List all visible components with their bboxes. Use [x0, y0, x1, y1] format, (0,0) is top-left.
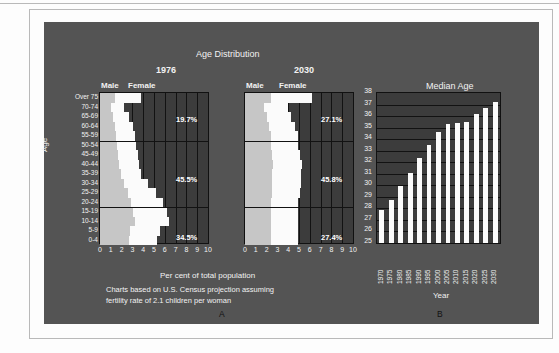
chart-a-bar-male: [245, 141, 271, 151]
chart-b-bar: [408, 173, 413, 243]
chart-a-1976-heading: 1976: [156, 66, 176, 75]
chart-b-bar: [474, 114, 479, 243]
chart-a-bar-male: [245, 93, 271, 103]
chart-a-bar-female: [267, 112, 292, 122]
chart-a-y-tick-labels: Over 7570-7465-6960-6455-5950-5445-4940-…: [50, 92, 98, 244]
chart-a-y-tick-label: 10-14: [81, 216, 98, 226]
chart-a-bar-male: [245, 103, 264, 113]
chart-a-bar-female: [271, 131, 298, 141]
chart-a-bar-male: [100, 160, 119, 170]
chart-a-bar-female: [272, 169, 301, 179]
chart-b-y-tick-label: 31: [364, 168, 372, 175]
chart-b-bar: [389, 200, 394, 243]
chart-a-title: Age Distribution: [196, 50, 260, 59]
page-rule-inner-bottom: [29, 338, 553, 339]
chart-a-bar-male: [100, 103, 111, 113]
chart-b-x-tick-label: 1980: [396, 270, 403, 284]
chart-a-bar-female: [271, 217, 298, 227]
chart-a-age-band: [100, 217, 208, 227]
chart-a-x-tick-label: 6: [163, 246, 167, 253]
chart-a-bar-male: [100, 169, 121, 179]
chart-b-bar: [417, 158, 422, 243]
chart-b-y-tick-label: 37: [364, 99, 372, 106]
chart-a-y-tick-label: 45-49: [81, 149, 98, 159]
chart-b-x-tick-label: 1995: [424, 270, 431, 284]
chart-b-bar: [446, 124, 451, 243]
chart-a-bar-male: [245, 150, 272, 160]
figure-page: Age Distribution 1976 2030 Male Female M…: [0, 0, 559, 353]
chart-a-x-tick-labels-2030: 012345678910: [244, 246, 354, 256]
chart-a-age-band: [245, 103, 353, 113]
chart-a-bar-female: [271, 93, 312, 103]
chart-a-bar-male: [100, 236, 129, 246]
legend-2030-male: Male: [246, 82, 264, 90]
chart-a-y-tick-label: 30-34: [81, 178, 98, 188]
chart-a-age-band: [100, 207, 208, 217]
legend-1976-male: Male: [101, 82, 119, 90]
chart-a-bar-female: [133, 207, 166, 217]
chart-a-bar-female: [131, 198, 162, 208]
chart-a-bar-female: [271, 207, 298, 217]
chart-a-bar-female: [272, 150, 300, 160]
chart-b-y-tick-labels: 2526272829303132333435363738: [344, 86, 372, 246]
chart-a-bar-male: [245, 112, 267, 122]
chart-b-x-tick-label: 2030: [490, 270, 497, 284]
chart-a-x-tick-label: 7: [319, 246, 323, 253]
chart-b-bar: [464, 122, 469, 243]
chart-a-percent-annotation: 45.5%: [176, 175, 197, 184]
chart-a-bar-male: [245, 217, 271, 227]
chart-a-x-tick-label: 5: [297, 246, 301, 253]
chart-b-y-tick-label: 28: [364, 202, 372, 209]
chart-b-y-tick-label: 35: [364, 122, 372, 129]
chart-a-bar-female: [271, 226, 298, 236]
chart-a-y-tick-label: 60-64: [81, 121, 98, 131]
chart-a-bar-male: [245, 188, 272, 198]
chart-b-y-tick-label: 26: [364, 225, 372, 232]
chart-b-bar: [455, 123, 460, 243]
chart-a-bar-male: [245, 160, 273, 170]
chart-a-panel-label: A: [219, 310, 225, 319]
chart-a-percent-annotation: 19.7%: [176, 115, 197, 124]
chart-a-x-tick-label: 10: [349, 246, 357, 253]
chart-b-y-tick-label: 33: [364, 145, 372, 152]
chart-a-age-band: [245, 141, 353, 151]
chart-a-age-band: [245, 93, 353, 103]
chart-a-bar-male: [100, 217, 135, 227]
chart-a-bar-male: [100, 112, 113, 122]
chart-b-gridline-horizontal: [377, 128, 500, 129]
chart-a-note-line-2: fertility rate of 2.1 children per woman: [106, 297, 231, 305]
chart-a-bar-female: [124, 179, 148, 189]
chart-a-x-tick-label: 3: [130, 246, 134, 253]
chart-a-bar-male: [245, 207, 271, 217]
chart-a-bar-male: [100, 207, 133, 217]
chart-a-age-band: [100, 141, 208, 151]
chart-a-bar-male: [245, 226, 271, 236]
chart-a-y-tick-label: 50-54: [81, 140, 98, 150]
chart-a-x-tick-label: 1: [254, 246, 258, 253]
chart-a-bar-female: [271, 198, 298, 208]
figure-panel: Age Distribution 1976 2030 Male Female M…: [44, 22, 539, 324]
chart-a-bar-female: [271, 236, 298, 246]
chart-b-y-tick-label: 25: [364, 237, 372, 244]
chart-a-x-tick-label: 2: [120, 246, 124, 253]
chart-a-age-band: [100, 160, 208, 170]
chart-a-group-separator: [100, 141, 208, 142]
chart-a-bar-female: [272, 179, 301, 189]
chart-a-x-tick-label: 10: [204, 246, 212, 253]
page-rule-inner-top: [29, 9, 553, 10]
chart-a-bar-female: [115, 122, 133, 132]
chart-a-age-band: [100, 150, 208, 160]
chart-b-title: Median Age: [426, 82, 474, 91]
chart-b-x-tick-label: 2025: [481, 270, 488, 284]
chart-b-bar: [379, 210, 384, 243]
chart-a-bar-male: [100, 150, 118, 160]
chart-a-bar-female: [129, 236, 157, 246]
chart-a-age-band: [100, 103, 208, 113]
chart-a-y-tick-label: 40-44: [81, 159, 98, 169]
chart-b-x-axis-title: Year: [433, 292, 449, 300]
chart-a-note-line-1: Charts based on U.S. Census projection a…: [106, 286, 274, 294]
chart-b-y-tick-label: 38: [364, 87, 372, 94]
chart-a-bar-female: [115, 93, 141, 103]
chart-a-y-tick-label: 55-59: [81, 130, 98, 140]
chart-b-y-tick-label: 36: [364, 110, 372, 117]
